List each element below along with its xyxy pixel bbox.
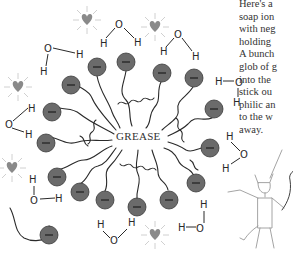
soap-ion (128, 198, 146, 216)
svg-text:H: H (29, 174, 37, 185)
svg-text:O: O (5, 119, 13, 130)
heart-icon (73, 6, 101, 34)
caption-line: Here's a (239, 0, 293, 11)
svg-text:H: H (215, 76, 223, 87)
soap-ion (205, 100, 223, 118)
svg-text:H: H (222, 163, 230, 174)
caption-line: philic an (239, 99, 293, 112)
heart-icon (141, 221, 169, 249)
svg-text:O: O (174, 29, 182, 40)
grease-label: GREASE (116, 130, 161, 142)
svg-text:O: O (110, 235, 118, 246)
svg-text:H: H (226, 131, 234, 142)
soap-ion (160, 191, 178, 209)
water-molecule: OHH (160, 29, 200, 62)
soap-ion (62, 76, 80, 94)
svg-text:H: H (40, 66, 48, 77)
svg-text:O: O (196, 223, 204, 234)
soap-ion (153, 64, 171, 82)
svg-text:H: H (25, 129, 33, 140)
caption-line: holding (239, 36, 293, 49)
soap-ion (96, 191, 114, 209)
caption-line: glob of g (239, 61, 293, 74)
caption-line: A bunch (239, 48, 293, 61)
water-molecule: OHH (100, 19, 142, 49)
svg-text:H: H (134, 37, 142, 48)
heart-icon (4, 73, 32, 101)
water-molecule: OHH (40, 43, 84, 77)
svg-text:H: H (128, 217, 136, 228)
grease-micelle-diagram: OHH OHH OHH HOH OHH HOH HOH HOH (0, 0, 293, 253)
soap-ion (117, 53, 135, 71)
svg-text:H: H (200, 199, 208, 210)
soap-tails (10, 71, 212, 241)
svg-text:H: H (28, 103, 36, 114)
svg-text:H: H (160, 46, 168, 57)
soap-ion (201, 139, 219, 157)
svg-text:O: O (115, 19, 123, 30)
water-molecule: HOH (222, 131, 248, 174)
caption-line: soap ion (239, 11, 293, 24)
svg-text:H: H (76, 49, 84, 60)
svg-text:H: H (55, 193, 63, 204)
soap-ion (88, 58, 106, 76)
caption-text: Here's a soap ion with neg holding A bun… (239, 0, 293, 137)
caption-line: into the (239, 74, 293, 87)
soap-ion (71, 183, 89, 201)
svg-text:H: H (97, 219, 105, 230)
soap-ion (187, 174, 205, 192)
soap-ion (43, 103, 61, 121)
svg-text:H: H (178, 222, 186, 233)
svg-text:O: O (240, 149, 248, 160)
svg-text:H: H (100, 38, 108, 49)
water-molecule: HOH (97, 217, 136, 246)
water-molecule: OHH (5, 103, 36, 140)
soap-ion (37, 134, 55, 152)
caption-line: to the w (239, 111, 293, 124)
soap-ion (185, 69, 203, 87)
soap-ion (48, 168, 66, 186)
svg-text:O: O (44, 43, 52, 54)
devil-icon (228, 150, 293, 248)
heart-icon (141, 13, 169, 41)
water-molecule: HHO (178, 199, 208, 234)
caption-line: away. (239, 124, 293, 137)
heart-icon (0, 154, 26, 182)
svg-text:H: H (192, 51, 200, 62)
caption-line: stick ou (239, 86, 293, 99)
svg-text:O: O (30, 195, 38, 206)
soap-ion (40, 226, 58, 244)
soap-ion-heads (37, 53, 223, 244)
caption-line: with neg (239, 23, 293, 36)
